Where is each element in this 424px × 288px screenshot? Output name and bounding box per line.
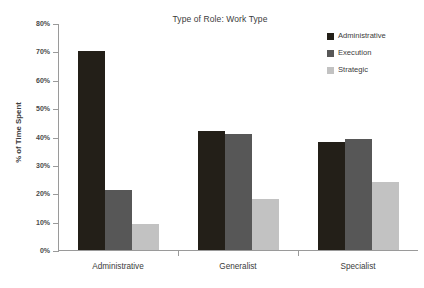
y-axis-tick <box>53 52 58 53</box>
y-axis-tick-label: 40% <box>24 134 50 141</box>
y-axis-tick <box>53 81 58 82</box>
bar-generalist-strategic <box>252 199 279 250</box>
y-axis-tick <box>53 24 58 25</box>
chart-title: Type of Role: Work Type <box>120 14 320 24</box>
bar-administrative-strategic <box>132 224 159 250</box>
bar-specialist-administrative <box>318 142 345 250</box>
legend-item-strategic[interactable]: Strategic <box>327 63 386 77</box>
y-axis-tick-label: 60% <box>24 77 50 84</box>
bar-specialist-strategic <box>372 182 399 250</box>
legend-swatch-strategic <box>327 67 334 74</box>
y-axis-tick <box>53 109 58 110</box>
y-axis-tick-label: 30% <box>24 162 50 169</box>
y-axis-line <box>58 24 59 252</box>
x-axis-line <box>58 250 418 251</box>
y-axis-tick <box>53 166 58 167</box>
x-axis-category-label: Generalist <box>178 262 298 271</box>
y-axis-tick-label: 50% <box>24 105 50 112</box>
y-axis-tick-label: 80% <box>24 20 50 27</box>
x-axis-category-label: Administrative <box>58 262 178 271</box>
legend-item-execution[interactable]: Execution <box>327 46 386 60</box>
y-axis-tick-label: 10% <box>24 219 50 226</box>
legend-item-label: Strategic <box>338 66 368 74</box>
bar-generalist-execution <box>225 134 252 250</box>
legend-swatch-administrative <box>327 33 334 40</box>
legend-swatch-execution <box>327 50 334 57</box>
y-axis-tick <box>53 194 58 195</box>
y-axis-tick-label: 20% <box>24 190 50 197</box>
legend-item-label: Execution <box>338 49 371 57</box>
bar-specialist-execution <box>345 139 372 250</box>
x-axis-separator-tick <box>178 251 179 256</box>
bar-administrative-execution <box>105 190 132 250</box>
x-axis-separator-tick <box>298 251 299 256</box>
y-axis-tick <box>53 138 58 139</box>
chart-legend: AdministrativeExecutionStrategic <box>327 29 386 80</box>
y-axis-tick-label: 0% <box>24 247 50 254</box>
y-axis-title: % of Time Spent <box>14 73 23 193</box>
bar-chart: Type of Role: Work Type % of Time Spent … <box>0 0 424 288</box>
bar-generalist-administrative <box>198 131 225 250</box>
y-axis-tick-label: 70% <box>24 48 50 55</box>
bar-administrative-administrative <box>78 51 105 250</box>
x-axis-category-label: Specialist <box>298 262 418 271</box>
y-axis-tick <box>53 251 58 252</box>
legend-item-administrative[interactable]: Administrative <box>327 29 386 43</box>
y-axis-tick <box>53 223 58 224</box>
legend-item-label: Administrative <box>338 32 386 40</box>
